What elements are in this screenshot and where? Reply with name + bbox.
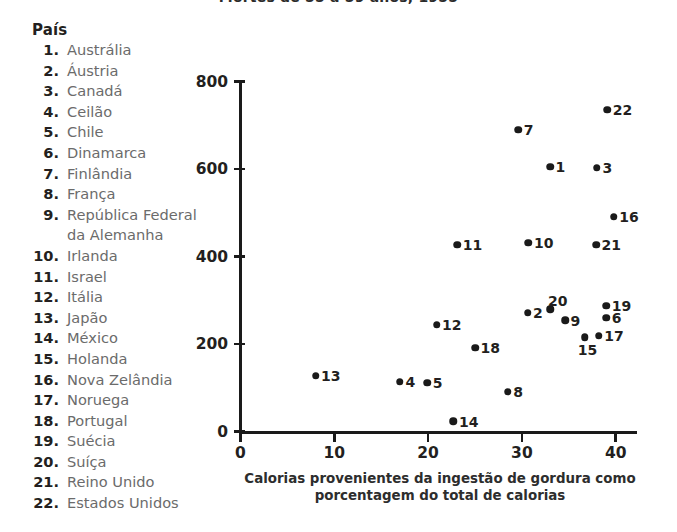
data-point-label-18: 18 (481, 341, 500, 355)
y-tick-label-600: 600 (182, 160, 228, 178)
x-axis-title: Calorias provenientes da ingestão de gor… (205, 470, 675, 504)
x-tick-30 (521, 432, 524, 442)
data-point-6 (603, 314, 611, 322)
data-point-7 (514, 126, 522, 134)
data-point-19 (603, 302, 611, 310)
data-point-label-9: 9 (571, 314, 581, 328)
data-point-label-11: 11 (463, 238, 482, 252)
x-tick-20 (427, 432, 430, 442)
data-point-label-14: 14 (459, 415, 478, 429)
data-point-label-5: 5 (433, 376, 443, 390)
y-tick-label-800: 800 (182, 73, 228, 91)
y-tick-label-400: 400 (182, 248, 228, 266)
data-point-label-20: 20 (548, 294, 567, 308)
data-point-label-21: 21 (602, 238, 621, 252)
data-point-8 (504, 388, 512, 396)
x-tick-label-30: 30 (502, 444, 542, 462)
x-tick-label-10: 10 (314, 444, 354, 462)
data-point-label-15: 15 (578, 343, 597, 357)
data-point-label-4: 4 (405, 375, 415, 389)
y-tick-label-0: 0 (182, 423, 228, 441)
data-point-3 (593, 164, 601, 172)
data-point-label-8: 8 (513, 385, 523, 399)
data-point-label-22: 22 (613, 103, 632, 117)
x-tick-40 (614, 432, 617, 442)
data-point-12 (433, 321, 441, 329)
data-point-label-17: 17 (604, 329, 623, 343)
data-point-11 (453, 241, 461, 249)
x-axis-title-line1: Calorias provenientes da ingestão de gor… (244, 471, 635, 486)
data-point-2 (524, 309, 532, 317)
data-point-label-10: 10 (534, 236, 553, 250)
x-axis-line (239, 431, 637, 434)
data-point-1 (546, 163, 554, 171)
y-tick-600 (234, 168, 245, 171)
data-point-label-3: 3 (602, 161, 612, 175)
y-tick-800 (234, 80, 245, 83)
data-point-17 (595, 332, 603, 340)
data-point-22 (604, 106, 612, 114)
scatter-plot: 0200400600800 010203040 1234567891011121… (0, 0, 677, 532)
x-tick-label-20: 20 (408, 444, 448, 462)
x-axis-title-line2: porcentagem do total de calorias (205, 487, 675, 504)
x-tick-label-0: 0 (221, 444, 261, 462)
data-point-14 (450, 418, 458, 426)
data-point-label-2: 2 (533, 306, 543, 320)
data-point-16 (610, 213, 618, 221)
data-point-label-12: 12 (442, 318, 461, 332)
data-point-18 (471, 344, 479, 352)
data-point-label-19: 19 (612, 299, 631, 313)
data-point-label-13: 13 (321, 369, 340, 383)
data-point-label-16: 16 (619, 210, 638, 224)
y-tick-200 (234, 343, 245, 346)
data-point-9 (561, 317, 569, 325)
data-point-21 (592, 241, 600, 249)
x-tick-label-40: 40 (596, 444, 636, 462)
data-point-label-1: 1 (556, 160, 566, 174)
data-point-5 (423, 379, 431, 387)
data-point-4 (396, 378, 404, 386)
x-tick-0 (239, 432, 242, 442)
y-tick-400 (234, 255, 245, 258)
y-tick-label-200: 200 (182, 335, 228, 353)
x-tick-10 (333, 432, 336, 442)
data-point-15 (581, 334, 589, 342)
data-point-10 (525, 239, 533, 247)
data-point-13 (312, 372, 320, 380)
data-point-label-7: 7 (524, 123, 534, 137)
